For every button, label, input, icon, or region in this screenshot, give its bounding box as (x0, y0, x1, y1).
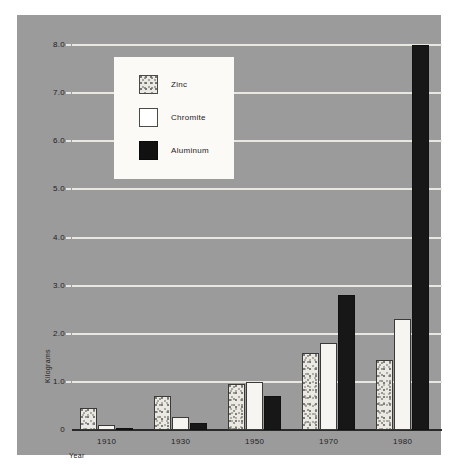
y-axis-tick-mark (66, 333, 71, 335)
bar-zinc-1930 (154, 396, 171, 430)
bar-zinc-1980 (376, 360, 393, 430)
legend-item-chromite: Chromite (139, 108, 206, 127)
bar-aluminum-1980 (412, 45, 429, 430)
bar-chromite-1930 (172, 417, 189, 430)
legend-item-aluminum: Aluminum (139, 141, 209, 160)
gridline (72, 188, 442, 190)
bar-chromite-1980 (394, 319, 411, 430)
y-axis-tick-mark (66, 44, 71, 46)
x-axis-tick-label: 1950 (245, 437, 264, 446)
x-axis-title: Year (69, 452, 85, 459)
bar-aluminum-1930 (190, 423, 207, 430)
y-axis-tick-label: 2.0 (53, 329, 65, 338)
bar-aluminum-1970 (338, 295, 355, 430)
gridline (72, 237, 442, 239)
x-axis-tick-label: 1980 (393, 437, 412, 446)
legend-swatch-zinc (139, 75, 158, 94)
bar-zinc-1950 (228, 384, 245, 430)
x-axis-tick-label: 1930 (171, 437, 190, 446)
y-axis-tick-label: 5.0 (53, 185, 65, 194)
bar-chromite-1910 (98, 425, 115, 430)
bar-zinc-1970 (302, 353, 319, 430)
y-axis-tick-mark (66, 92, 71, 94)
x-axis-tick-label: 1970 (319, 437, 338, 446)
legend-label-aluminum: Aluminum (171, 146, 209, 155)
y-axis-tick-label: 4.0 (53, 233, 65, 242)
y-axis-tick-label: 8.0 (53, 40, 65, 49)
x-axis-tick-label: 1910 (97, 437, 116, 446)
gridline (72, 285, 442, 287)
y-axis-tick-label: 6.0 (53, 137, 65, 146)
bar-chromite-1950 (246, 382, 263, 430)
bar-chromite-1970 (320, 343, 337, 430)
y-axis-tick-mark (66, 140, 71, 142)
chart-figure: Kilograms Year 01.02.03.04.05.06.07.08.0… (0, 0, 458, 470)
bar-aluminum-1950 (264, 396, 281, 430)
y-axis-tick-label: 3.0 (53, 281, 65, 290)
y-axis-tick-label: 0 (60, 425, 65, 434)
chart-legend: Zinc Chromite Aluminum (114, 57, 234, 179)
gridline (72, 333, 442, 335)
legend-swatch-chromite (139, 108, 158, 127)
legend-label-zinc: Zinc (171, 80, 187, 89)
gridline (72, 44, 442, 46)
y-axis-tick-mark (66, 188, 71, 190)
bar-aluminum-1910 (116, 428, 133, 430)
bar-zinc-1910 (80, 408, 97, 430)
y-axis-tick-label: 1.0 (53, 377, 65, 386)
y-axis-tick-mark (66, 237, 71, 239)
y-axis-tick-label: 7.0 (53, 88, 65, 97)
legend-label-chromite: Chromite (171, 113, 206, 122)
legend-item-zinc: Zinc (139, 75, 187, 94)
legend-swatch-aluminum (139, 141, 158, 160)
y-axis-title: Kilograms (44, 349, 51, 383)
y-axis-tick-mark (66, 285, 71, 287)
y-axis-tick-mark (66, 381, 71, 383)
chart-panel: Kilograms Year 01.02.03.04.05.06.07.08.0… (17, 15, 441, 455)
